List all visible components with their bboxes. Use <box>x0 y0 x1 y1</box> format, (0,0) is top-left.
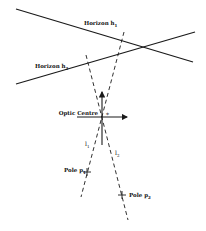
optic-centre: Optic Centre * <box>59 92 127 145</box>
pole-p1: Pole p1 <box>64 167 91 176</box>
cross-marker-icon <box>118 191 126 199</box>
horizon-h2: Horizon h2 <box>16 32 195 84</box>
line-l1-label: l1 <box>85 140 89 149</box>
horizon-h2-label: Horizon h2 <box>35 63 69 71</box>
pole-p1-label: Pole p1 <box>64 167 86 175</box>
diagram-canvas: Horizon h1 Horizon h2 l1 l2 Optic Centre… <box>0 0 206 231</box>
horizon-h1-label: Horizon h1 <box>84 20 118 28</box>
line-l2-label: l2 <box>115 149 120 158</box>
pole-p2: Pole p2 <box>118 191 151 200</box>
horizon-h1: Horizon h1 <box>16 9 193 62</box>
optic-centre-star: * <box>106 111 109 118</box>
pole-p2-label: Pole p2 <box>129 192 151 200</box>
optic-centre-label: Optic Centre <box>59 110 99 117</box>
